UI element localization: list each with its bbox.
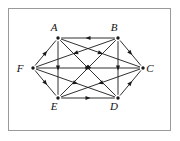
edge-arrowhead-icon xyxy=(86,96,91,100)
vertex-label-a: A xyxy=(50,21,58,33)
edges-layer xyxy=(35,36,141,100)
figure-frame: ABCDEF xyxy=(0,0,180,141)
vertex-label-f: F xyxy=(16,62,24,74)
vertex-label-b: B xyxy=(111,21,118,33)
vertex-label-e: E xyxy=(50,100,58,112)
edge-arrowhead-icon xyxy=(73,50,78,54)
vertex-label-d: D xyxy=(109,100,118,112)
graph-vertex-a xyxy=(56,36,59,39)
edge-arrowhead-icon xyxy=(86,36,91,40)
graph-vertex-c xyxy=(141,66,144,69)
graph-vertex-f xyxy=(31,66,34,69)
graph-vertex-b xyxy=(116,36,119,39)
directed-graph: ABCDEF xyxy=(0,0,180,141)
vertex-label-c: C xyxy=(146,62,154,74)
